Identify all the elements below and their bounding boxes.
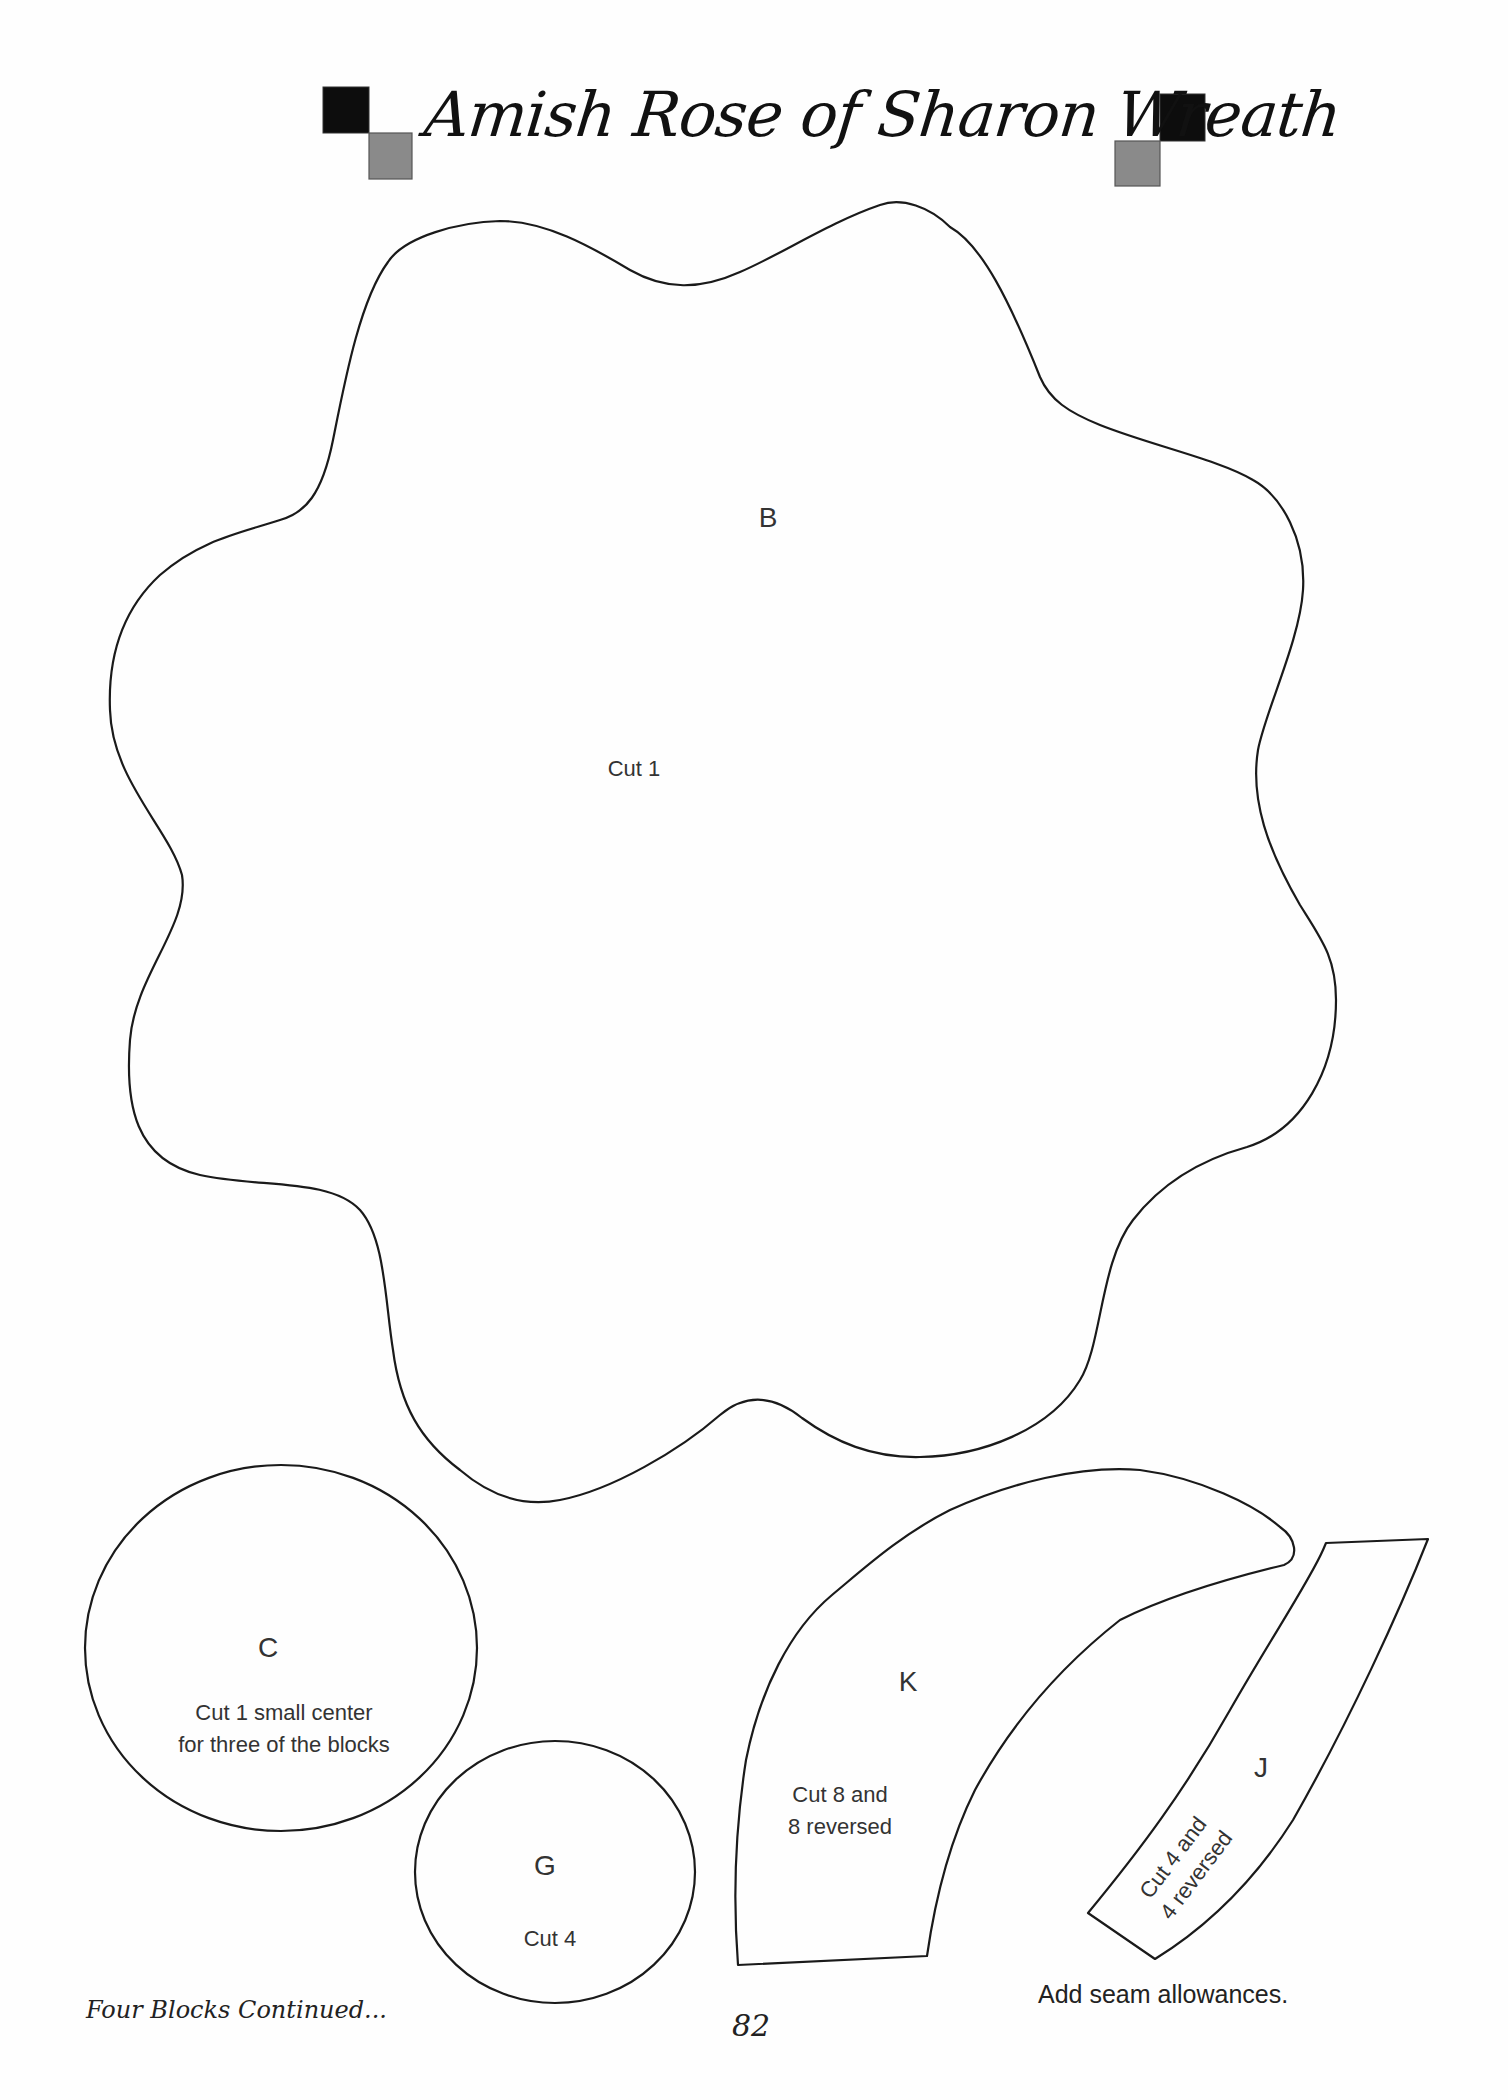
piece-g-cut-note: Cut 4	[500, 1925, 600, 1954]
piece-c-cut-note-line1: Cut 1 small center	[134, 1699, 434, 1728]
piece-k-cut-note-line2: 8 reversed	[760, 1813, 920, 1842]
pattern-artwork	[0, 0, 1508, 2100]
piece-k-letter: K	[888, 1664, 928, 1700]
page-title: Amish Rose of Sharon Wreath	[421, 78, 1109, 151]
piece-c-cut-note-line2: for three of the blocks	[134, 1731, 434, 1760]
seam-allowance-note: Add seam allowances.	[1038, 1980, 1288, 2009]
piece-j-letter: J	[1246, 1750, 1276, 1786]
footer-section-title: Four Blocks Continued...	[86, 1996, 387, 2024]
piece-k-outline	[735, 1469, 1294, 1965]
piece-k-cut-note-line1: Cut 8 and	[760, 1781, 920, 1810]
piece-g-letter: G	[525, 1848, 565, 1884]
piece-b-cut-note: Cut 1	[584, 755, 684, 784]
piece-c-letter: C	[248, 1630, 288, 1666]
title-decoration-left-icon	[323, 87, 412, 179]
piece-b-outline	[110, 202, 1336, 1502]
page-number: 82	[732, 2008, 770, 2043]
piece-b-letter: B	[748, 500, 788, 536]
pattern-page: Amish Rose of Sharon Wreath B Cut 1 C Cu…	[0, 0, 1508, 2100]
